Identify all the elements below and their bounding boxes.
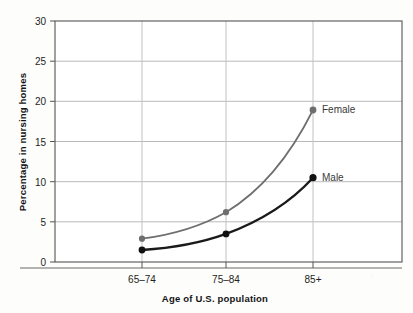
x-tick-label-75-84: 75–84: [212, 274, 240, 285]
female-point-75-84: [223, 209, 229, 215]
y-tick-label-20: 20: [35, 96, 47, 107]
y-tick-label-15: 15: [35, 137, 47, 148]
y-tick-label-30: 30: [35, 16, 47, 27]
male-point-85-plus: [309, 174, 316, 181]
y-tick-label-25: 25: [35, 56, 47, 67]
female-point-65-74: [139, 236, 145, 242]
x-tick-labels: 65–74 75–84 85+: [128, 274, 322, 285]
female-point-85-plus: [310, 107, 317, 114]
x-tick-label-85-plus: 85+: [305, 274, 322, 285]
y-tick-label-5: 5: [40, 217, 46, 228]
series-label-male: Male: [322, 172, 344, 183]
x-axis-ticks: [20, 262, 402, 268]
line-chart: 30 25 20 15 10 5 0 65–74 75–84 85+ Age o…: [0, 0, 413, 313]
y-axis-title: Percentage in nursing homes: [17, 73, 28, 211]
chart-figure: 30 25 20 15 10 5 0 65–74 75–84 85+ Age o…: [0, 0, 413, 313]
y-tick-label-0: 0: [40, 257, 46, 268]
x-tick-label-65-74: 65–74: [128, 274, 156, 285]
male-point-65-74: [139, 247, 146, 254]
y-tick-labels: 30 25 20 15 10 5 0: [35, 16, 47, 268]
x-axis-title: Age of U.S. population: [162, 293, 268, 304]
male-point-75-84: [223, 231, 230, 238]
series-label-female: Female: [322, 104, 356, 115]
y-axis-ticks: [50, 21, 55, 262]
y-tick-label-10: 10: [35, 177, 47, 188]
